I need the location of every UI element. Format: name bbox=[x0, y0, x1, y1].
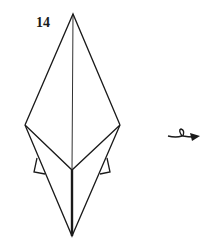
turn-over-icon bbox=[168, 129, 200, 141]
origami-diagram bbox=[0, 0, 214, 251]
center-crease bbox=[72, 14, 73, 170]
